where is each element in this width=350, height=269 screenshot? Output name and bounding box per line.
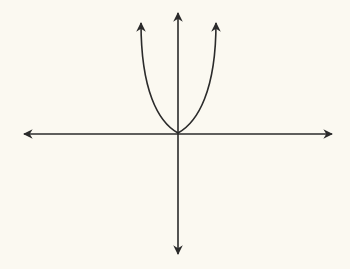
graph-canvas [0,0,350,269]
